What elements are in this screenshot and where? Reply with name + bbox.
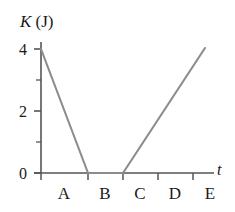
x-tick-label-b: B bbox=[94, 185, 116, 202]
x-tick-label-d: D bbox=[164, 185, 186, 202]
x-axis-label: t bbox=[217, 162, 221, 178]
y-tick-label-2: 2 bbox=[13, 104, 27, 120]
x-tick-label-c: C bbox=[129, 185, 151, 202]
y-axis-unit: (J) bbox=[36, 12, 54, 31]
y-axis-label: K (J) bbox=[20, 13, 54, 30]
series-kinetic-energy-descending bbox=[41, 49, 88, 173]
chart-figure: K (J) t 0 2 4 A B C D E bbox=[0, 0, 235, 212]
x-tick-label-a: A bbox=[53, 185, 75, 202]
chart-plot-area bbox=[0, 0, 235, 212]
y-tick-label-0: 0 bbox=[13, 166, 27, 182]
y-major-ticks bbox=[34, 49, 41, 173]
series-kinetic-energy-ascending bbox=[123, 48, 205, 173]
x-tick-label-e: E bbox=[199, 185, 221, 202]
y-axis-symbol: K bbox=[20, 12, 31, 31]
y-tick-label-4: 4 bbox=[13, 42, 27, 58]
